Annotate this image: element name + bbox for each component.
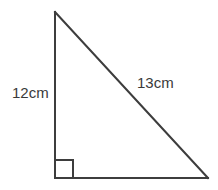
right-angle-marker: [55, 160, 73, 178]
hypotenuse-line: [55, 12, 208, 178]
vertical-leg-label: 12cm: [12, 85, 49, 101]
right-triangle-figure: 12cm 13cm: [0, 0, 218, 190]
hypotenuse-label: 13cm: [137, 75, 174, 91]
